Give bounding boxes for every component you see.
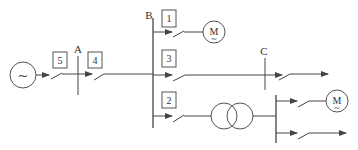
motor-2-icon: M ~ [326,90,348,113]
transformer-icon [211,103,276,129]
box-4: 4 [88,52,102,68]
svg-text:B: B [145,9,152,21]
svg-text:A: A [74,43,82,55]
circuit-diagram: ~ A 5 4 B 1 M ~ [0,0,358,150]
bus-b: B [145,9,153,128]
motor-1-icon: M ~ [203,21,225,44]
secondary-branch-feeder [276,133,346,139]
svg-text:~: ~ [211,33,217,44]
box-5: 5 [53,52,67,68]
svg-text:~: ~ [18,68,29,83]
svg-text:1: 1 [167,13,172,24]
bus-c: C [260,45,267,90]
switch-4 [94,74,104,80]
branch-1: 1 [153,10,203,37]
secondary-branch-motor [276,101,326,107]
svg-text:3: 3 [167,53,172,64]
svg-text:~: ~ [334,102,340,113]
main-feeder-line [36,73,153,80]
svg-text:2: 2 [167,95,172,106]
svg-text:5: 5 [58,55,63,66]
svg-text:C: C [260,45,267,57]
bus-a: A [74,43,82,95]
svg-text:4: 4 [93,55,98,66]
branch-3: 3 [153,50,328,81]
branch-2: 2 [153,92,211,122]
ac-generator-icon: ~ [10,62,36,88]
switch-5 [51,73,62,79]
